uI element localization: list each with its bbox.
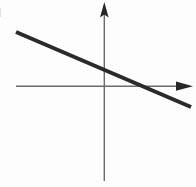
coordinate-plane-figure: Line with negative slope on coordinate a… [0, 0, 196, 187]
scan-edge-artifact [0, 8, 1, 17]
figure-background [0, 0, 196, 187]
coordinate-plane-svg [0, 0, 196, 187]
